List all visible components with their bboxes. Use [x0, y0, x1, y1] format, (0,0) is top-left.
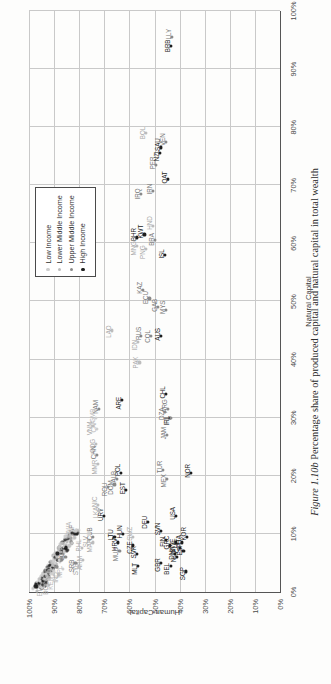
data-point-label: HND: [146, 216, 153, 229]
figure-caption: Figure 1.10b Percentage share of produce…: [301, 0, 327, 684]
data-point-label: COL: [143, 330, 150, 343]
data-point-label: VEN: [158, 133, 165, 146]
data-point-label: TUR: [156, 461, 163, 474]
data-point-label: JAM: [160, 427, 167, 439]
y-tick-label: 20%: [225, 599, 234, 614]
data-point-label: MMR: [91, 460, 98, 475]
data-point-label: GAB: [151, 299, 158, 312]
legend-marker-icon: [81, 268, 84, 271]
x-tick-label: 10%: [289, 527, 298, 542]
x-tick-label: 90%: [289, 62, 298, 77]
x-tick-label: 60%: [289, 236, 298, 251]
data-point-label: KWT: [137, 225, 144, 239]
data-point-label: CHL: [158, 386, 165, 398]
data-point-label: LKA: [92, 507, 99, 519]
legend-item-label: Low Income: [44, 225, 53, 264]
data-point-label: MUS: [112, 547, 119, 561]
gridline-horizontal: [79, 11, 80, 592]
y-tick-label: 100%: [25, 599, 34, 618]
data-point-label: ROU: [101, 483, 108, 497]
data-point-label: MYS: [158, 301, 165, 314]
legend-marker-icon: [70, 268, 73, 271]
data-point-label: MLT: [131, 563, 138, 575]
y-axis-label: Human Capital: [129, 608, 179, 617]
gridline-horizontal: [54, 11, 55, 592]
x-tick-label: 40%: [289, 352, 298, 367]
x-tick-label: 0%: [289, 587, 298, 598]
data-point-label: CHN: [89, 446, 96, 459]
gridline-horizontal: [230, 11, 231, 592]
data-point-label: LTU: [107, 529, 114, 540]
data-point-label: IRQ: [133, 189, 140, 200]
data-point-label: ESP: [176, 543, 183, 555]
data-point-label: HUN: [116, 525, 123, 538]
data-point-label: QAT: [161, 171, 168, 183]
data-point-label: MAR: [86, 539, 93, 553]
data-point-label: NIC: [91, 497, 98, 508]
gridline-horizontal: [104, 11, 105, 592]
data-point-label: IRN: [146, 184, 153, 195]
x-tick-label: 30%: [289, 410, 298, 425]
data-point-label: AUS: [153, 328, 160, 341]
x-tick-label: 70%: [289, 178, 298, 193]
data-point-label: LAO: [104, 325, 111, 337]
data-point-label: MEX: [160, 474, 167, 487]
legend-item-uppmid: Upper Middle Income: [67, 195, 76, 271]
data-point-label: SGP: [178, 567, 185, 580]
y-tick-label: 80%: [75, 599, 84, 614]
data-point-label: SWZ: [126, 527, 133, 541]
legend-item-label: High Income: [78, 223, 87, 263]
data-point-label: LLY: [165, 29, 172, 39]
data-point-label: SVN: [153, 523, 160, 536]
data-point-label: BHR: [129, 228, 136, 241]
data-point-label: DEU: [141, 516, 148, 529]
legend-item-high: High Income: [78, 195, 87, 271]
data-point-label: BOL: [138, 127, 145, 139]
gridline-horizontal: [255, 11, 256, 592]
legend: Low IncomeLower Middle IncomeUpper Middl…: [35, 187, 96, 277]
data-point-label: IDN: [131, 340, 138, 351]
legend-item-label: Lower Middle Income: [55, 195, 64, 263]
data-point-label: GBR: [153, 558, 160, 571]
data-point-label: SVK: [129, 546, 136, 558]
data-point-label: BRB: [163, 40, 170, 53]
x-tick-label: 80%: [289, 120, 298, 135]
y-tick-label: 70%: [100, 599, 109, 614]
y-tick-label: 90%: [50, 599, 59, 614]
y-tick-label: 0%: [276, 599, 285, 610]
gridline-horizontal: [29, 11, 30, 592]
data-point-label: MNG: [129, 241, 136, 255]
data-point-label: PNG: [138, 246, 145, 259]
data-point-label: USA: [168, 507, 175, 520]
data-point-label: FJI: [162, 416, 169, 424]
data-point-label: ITA: [175, 535, 182, 544]
data-point: [68, 544, 71, 547]
data-point: [169, 564, 172, 567]
data-point-label: PHL: [74, 539, 81, 551]
x-tick-label: 100%: [289, 2, 298, 21]
legend-item-label: Upper Middle Income: [67, 195, 76, 263]
gridline-horizontal: [205, 11, 206, 592]
gridline-horizontal: [129, 11, 130, 592]
data-point-label: SRB: [68, 560, 75, 573]
data-point-label: ARE: [114, 397, 121, 410]
plot-area: LAOPAKCOGCAFZAFPHLRWARUSIDNCOLAUSKAZECUG…: [29, 11, 281, 593]
data-point-label: ECU: [142, 291, 149, 304]
y-tick-label: 30%: [200, 599, 209, 614]
data-point-label: NOR: [183, 464, 190, 478]
data-point-label: RUS: [134, 327, 141, 340]
data-point: [60, 558, 63, 561]
scatter-figure: LAOPAKCOGCAFZAFPHLRWARUSIDNCOLAUSKAZECUG…: [15, 0, 315, 649]
legend-marker-icon: [46, 268, 49, 271]
data-point-label: EST: [118, 482, 125, 494]
figure-number: Figure 1.10b: [309, 462, 320, 515]
x-tick-label: 50%: [289, 294, 298, 309]
data-point-label: BRA: [147, 233, 154, 246]
legend-item-lowmid: Lower Middle Income: [55, 195, 64, 271]
data-point-label: FIN: [158, 537, 165, 547]
data-point-label: BEL: [162, 563, 169, 575]
data-point-label: NZL: [152, 150, 159, 162]
gridline-horizontal: [180, 11, 181, 592]
legend-marker-icon: [58, 268, 61, 271]
data-point: [66, 549, 69, 552]
